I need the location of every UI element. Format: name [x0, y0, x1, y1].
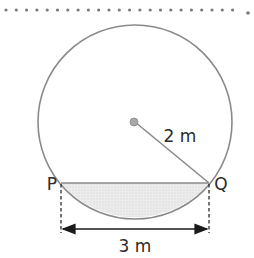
circle-segment-diagram: 2 m P Q 3 m [0, 0, 254, 258]
dotted-border [6, 10, 250, 15]
point-p-label: P [47, 174, 57, 194]
center-dot [130, 118, 138, 126]
shaded-segment [61, 183, 209, 217]
radius-label: 2 m [164, 126, 197, 146]
point-q-label: Q [214, 174, 227, 194]
chord-length-label: 3 m [119, 236, 152, 256]
